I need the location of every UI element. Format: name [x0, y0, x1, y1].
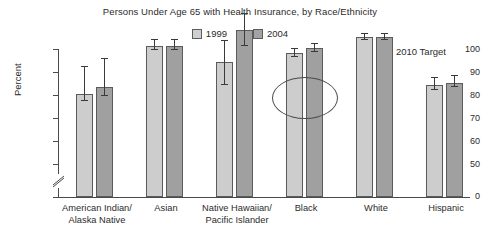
bar-1999-black[interactable] [286, 53, 303, 197]
legend-label-1999: 1999 [206, 28, 227, 39]
bar-1999-asian[interactable] [146, 46, 163, 197]
bar-2004-hispanic[interactable] [446, 83, 463, 197]
chart-title: Persons Under Age 65 with Health Insuran… [0, 6, 480, 17]
y-axis-label: Percent [12, 63, 23, 96]
bar-group-black [286, 49, 326, 197]
errorbar-1999-native-hawaiian [224, 41, 225, 85]
bar-2004-black[interactable] [306, 48, 323, 197]
legend-label-2004: 2004 [267, 28, 288, 39]
bar-plot-area [58, 49, 470, 197]
bar-group-native-hawaiian [216, 49, 256, 197]
bar-2004-asian[interactable] [166, 46, 183, 197]
x-label-white: White [338, 203, 414, 215]
bar-2004-american-indian[interactable] [96, 87, 113, 197]
bar-group-hispanic [426, 49, 466, 197]
highlight-circle-black-group [272, 77, 338, 119]
errorbar-2004-native-hawaiian [244, 14, 245, 46]
legend-swatch-1999-icon [192, 29, 202, 39]
bar-2004-white[interactable] [376, 37, 393, 197]
bar-group-american-indian [76, 49, 116, 197]
errorbar-2004-american-indian [104, 59, 105, 96]
bar-group-white [356, 49, 396, 197]
x-label-hispanic: Hispanic [408, 203, 484, 215]
x-axis-line [58, 197, 470, 198]
legend-swatch-2004-icon [253, 29, 263, 39]
x-label-black: Black [268, 203, 344, 215]
bar-1999-hispanic[interactable] [426, 85, 443, 197]
bar-group-asian [146, 49, 186, 197]
bar-1999-white[interactable] [356, 37, 373, 197]
legend-item-2004: 2004 [253, 28, 288, 39]
legend-item-1999: 1999 [192, 28, 227, 39]
bar-2004-native-hawaiian[interactable] [236, 30, 253, 197]
x-axis-labels: American Indian/ Alaska Native Asian Nat… [58, 201, 470, 241]
bar-1999-american-indian[interactable] [76, 94, 93, 197]
errorbar-1999-american-indian [84, 67, 85, 101]
